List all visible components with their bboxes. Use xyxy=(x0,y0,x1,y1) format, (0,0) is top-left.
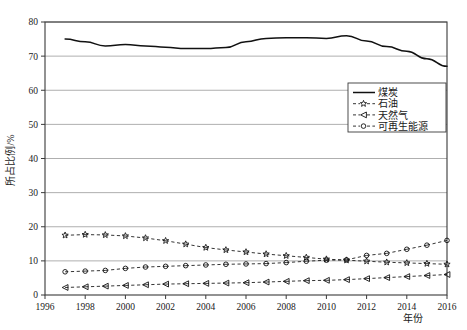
y-tick-label-20: 20 xyxy=(29,222,39,232)
y-axis-label: 所占比例/% xyxy=(4,134,16,185)
chart-container: 01020304050607080 1996199820002002200420… xyxy=(0,0,467,330)
y-tick-label-0: 0 xyxy=(33,290,38,300)
y-axis-tick-labels: 01020304050607080 xyxy=(29,17,39,300)
legend-label-3: 可再生能源 xyxy=(378,120,428,132)
x-tick-label-2000: 2000 xyxy=(116,302,135,312)
legend-label-2: 天然气 xyxy=(378,109,408,121)
x-tick-label-2014: 2014 xyxy=(397,302,416,312)
energy-share-line-chart: 01020304050607080 1996199820002002200420… xyxy=(0,0,467,330)
x-tick-label-2008: 2008 xyxy=(277,302,296,312)
x-tick-label-2002: 2002 xyxy=(156,302,175,312)
legend-label-0: 煤炭 xyxy=(378,86,398,98)
y-tick-label-60: 60 xyxy=(29,86,39,96)
x-tick-label-2010: 2010 xyxy=(317,302,336,312)
x-tick-label-2016: 2016 xyxy=(438,302,457,312)
x-axis-label: 年份 xyxy=(403,312,423,324)
y-tick-label-10: 10 xyxy=(29,256,39,266)
legend-label-1: 石油 xyxy=(378,97,398,109)
x-tick-label-2006: 2006 xyxy=(237,302,256,312)
x-tick-label-1998: 1998 xyxy=(76,302,95,312)
chart-legend: 煤炭石油天然气可再生能源 xyxy=(348,83,446,132)
y-tick-label-50: 50 xyxy=(29,120,39,130)
y-tick-label-30: 30 xyxy=(29,188,39,198)
x-tick-label-1996: 1996 xyxy=(36,302,55,312)
y-tick-label-80: 80 xyxy=(29,17,39,27)
y-tick-label-70: 70 xyxy=(29,52,39,62)
y-tick-label-40: 40 xyxy=(29,154,39,164)
x-tick-label-2012: 2012 xyxy=(357,302,376,312)
x-tick-label-2004: 2004 xyxy=(196,302,215,312)
